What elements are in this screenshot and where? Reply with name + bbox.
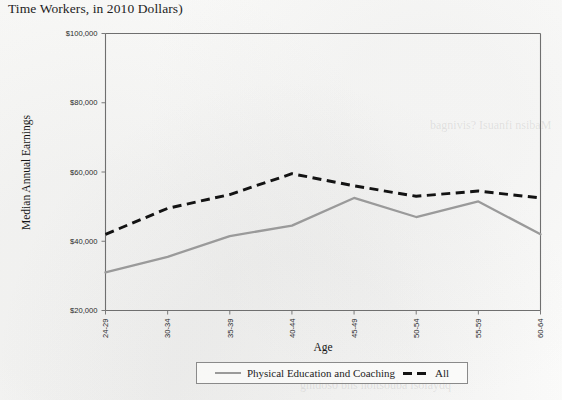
x-tick-label: 55-59 [474,319,483,338]
y-axis-ticks: $20,000$40,000$60,000$80,000$100,000 [66,29,106,315]
y-tick-label: $40,000 [70,237,97,246]
x-tick-label: 30-34 [163,319,172,338]
legend-item-all[interactable]: All [403,367,449,379]
legend-item-physical-education[interactable]: Physical Education and Coaching [215,367,395,379]
series-line-all [106,174,541,235]
chart-plot-area: $20,000$40,000$60,000$80,000$100,000 24-… [0,0,562,400]
x-tick-label: 50-54 [412,319,421,338]
legend-swatch-dashed-icon [403,372,429,375]
chart-legend: Physical Education and Coaching All [196,362,468,384]
y-axis-title: Median Annual Earnings [20,114,33,230]
legend-swatch-solid-icon [215,372,241,374]
y-tick-label: $20,000 [70,306,97,315]
x-tick-label: 35-39 [226,319,235,338]
line-chart-svg: $20,000$40,000$60,000$80,000$100,000 24-… [0,0,562,400]
x-tick-label: 60-64 [536,319,545,338]
x-tick-label: 40-44 [288,319,297,338]
x-tick-label: 45-49 [350,319,359,338]
x-axis-title: Age [313,341,332,354]
y-tick-label: $80,000 [70,98,97,107]
x-tick-label: 24-29 [101,319,110,338]
series-line-physical-education [106,198,541,272]
y-tick-label: $100,000 [66,29,98,38]
x-axis-ticks: 24-2930-3435-3940-4445-4950-5455-5960-64 [101,311,545,338]
legend-label-physical-education: Physical Education and Coaching [247,367,395,379]
y-tick-label: $60,000 [70,168,97,177]
legend-label-all: All [435,367,449,379]
